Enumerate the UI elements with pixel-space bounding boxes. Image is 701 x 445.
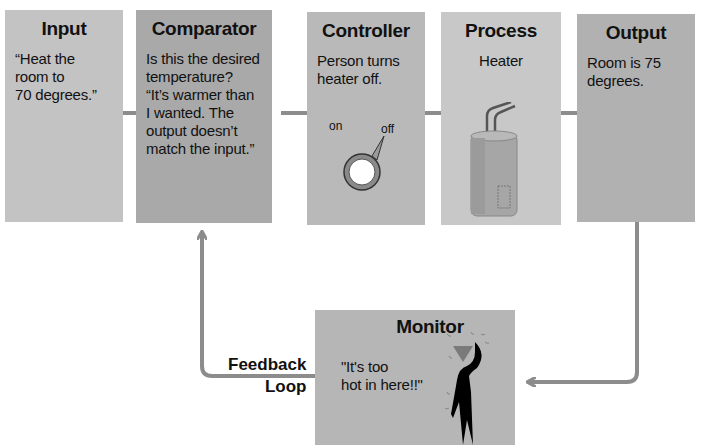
stage-title: Output [587, 22, 685, 44]
stage-description: Room is 75 degrees. [587, 54, 685, 90]
stage-monitor: Monitor "It's too hot in here!!" [315, 310, 515, 445]
water-heater-icon [465, 102, 535, 222]
dial-knob-icon [332, 130, 402, 200]
stage-description: Heater [451, 52, 551, 70]
sweating-person-icon [445, 332, 505, 445]
stage-output: Output Room is 75 degrees. [577, 14, 695, 222]
stage-title: Comparator [146, 18, 262, 40]
feedback-loop-label: Feedback Loop [228, 354, 306, 398]
stage-title: Controller [317, 20, 415, 42]
stage-description: Is this the desired temperature? “It’s w… [146, 50, 262, 158]
stage-comparator: Comparator Is this the desired temperatu… [136, 10, 272, 223]
arrow-output-to-monitor [528, 218, 637, 382]
stage-title: Process [451, 20, 551, 42]
stage-controller: Controller Person turns heater off. on o… [307, 12, 425, 225]
monitor-quote: "It's too hot in here!!" [341, 358, 423, 394]
stage-description: “Heat the room to 70 degrees.” [15, 50, 113, 104]
stage-title: Input [15, 18, 113, 40]
stage-process: Process Heater [441, 12, 561, 225]
stage-input: Input “Heat the room to 70 degrees.” [5, 10, 123, 222]
stage-description: Person turns heater off. [317, 52, 415, 88]
